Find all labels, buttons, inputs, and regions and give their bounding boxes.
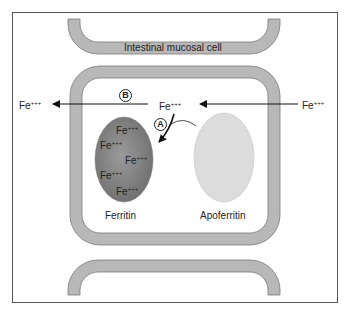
fe-center-label: Fe+++ bbox=[159, 99, 181, 112]
fe-right-outside-label: Fe+++ bbox=[302, 98, 324, 111]
ferritin-fe-4: Fe+++ bbox=[100, 168, 122, 181]
ferritin-label: Ferritin bbox=[105, 210, 136, 221]
fe-text: Fe bbox=[302, 100, 314, 111]
ferritin-fe-1: Fe+++ bbox=[116, 123, 138, 136]
ferritin-fe-5: Fe+++ bbox=[116, 184, 138, 197]
cell-title-label: Intestinal mucosal cell bbox=[124, 42, 222, 53]
fe-text: Fe bbox=[19, 100, 31, 111]
outer-frame bbox=[13, 13, 338, 303]
fe-text: Fe bbox=[159, 101, 171, 112]
ferritin-fe-2: Fe+++ bbox=[100, 138, 122, 151]
charge-text: +++ bbox=[171, 101, 182, 107]
apoferritin-shape bbox=[194, 113, 254, 202]
pathway-a-marker: A bbox=[154, 118, 167, 131]
charge-text: +++ bbox=[31, 100, 42, 106]
ferritin-fe-3: Fe+++ bbox=[125, 153, 147, 166]
pathway-b-marker: B bbox=[119, 89, 132, 102]
apoferritin-label: Apoferritin bbox=[200, 210, 246, 221]
charge-text: +++ bbox=[314, 100, 325, 106]
fe-left-outside-label: Fe+++ bbox=[19, 98, 41, 111]
